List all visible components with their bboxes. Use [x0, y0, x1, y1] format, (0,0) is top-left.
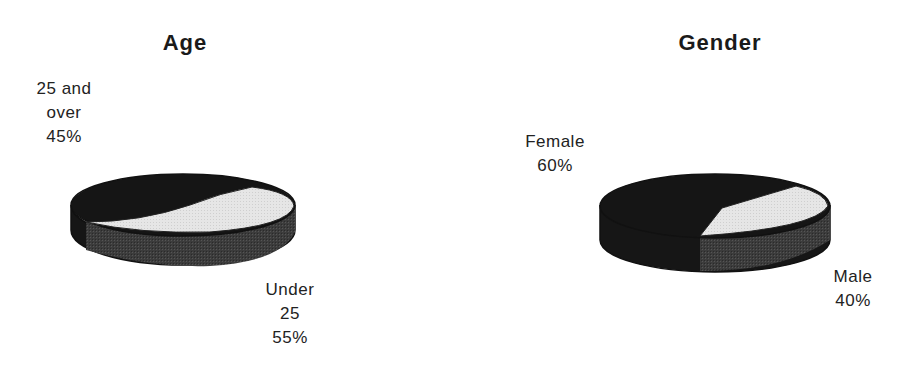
age-pie-chart: [71, 174, 295, 266]
gender-label-male: Male 40%: [818, 265, 888, 313]
cropped-caption-text: [0, 370, 899, 379]
gender-pie-chart: [600, 174, 830, 272]
charts-canvas: [0, 0, 899, 379]
age-label-25-and-over: 25 and over 45%: [16, 77, 112, 149]
gender-chart-title: Gender: [645, 30, 795, 56]
age-label-under-25: Under 25 55%: [250, 278, 330, 350]
age-chart-title: Age: [145, 30, 225, 56]
gender-label-female: Female 60%: [515, 130, 595, 178]
